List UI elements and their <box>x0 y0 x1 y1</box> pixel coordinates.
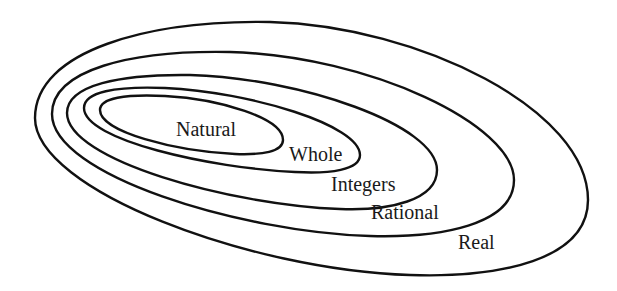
real-label: Real <box>458 231 495 253</box>
natural-label: Natural <box>176 118 236 140</box>
number-sets-diagram: Natural Whole Integers Rational Real <box>0 0 617 291</box>
rational-label: Rational <box>371 201 439 223</box>
whole-label: Whole <box>289 143 342 165</box>
integers-label: Integers <box>331 173 396 196</box>
